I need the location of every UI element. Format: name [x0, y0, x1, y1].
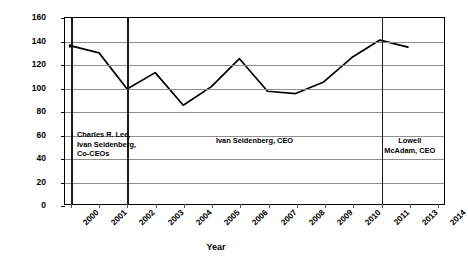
series-line	[65, 18, 444, 204]
x-tick-label: 2001	[110, 208, 129, 227]
y-tick-label: 20	[20, 177, 46, 187]
era-divider-2000	[71, 18, 73, 204]
x-tick-label: 2005	[222, 208, 241, 227]
y-tick-mark	[61, 42, 65, 43]
x-tick-label: 2011	[392, 208, 411, 227]
x-tick-label: 2003	[166, 208, 185, 227]
y-tick-mark	[61, 183, 65, 184]
x-tick-label: 2002	[138, 208, 157, 227]
y-tick-label: 60	[20, 130, 46, 140]
gridline	[65, 183, 444, 184]
x-tick-label: 2004	[194, 208, 213, 227]
gridline	[65, 42, 444, 43]
y-tick-mark	[61, 159, 65, 160]
x-tick-label: 2014	[448, 208, 467, 227]
y-tick-mark	[61, 112, 65, 113]
x-axis-title-text: Year	[206, 242, 225, 252]
y-tick-label: 100	[20, 83, 46, 93]
gridline	[65, 65, 444, 66]
x-axis-title: Year	[0, 242, 456, 252]
x-tick-label: 2009	[335, 208, 354, 227]
x-tick-label: 2010	[364, 208, 383, 227]
gridline	[65, 89, 444, 90]
x-tick-label: 2008	[307, 208, 326, 227]
y-tick-mark	[61, 65, 65, 66]
x-tick-label: 2007	[279, 208, 298, 227]
plot-area: Charles R. Lee, Ivan Seidenberg, Co-CEOs…	[64, 17, 445, 205]
y-tick-mark	[61, 89, 65, 90]
x-tick-label: 2006	[251, 208, 270, 227]
market-cap-line	[71, 40, 408, 105]
x-tick-label: 2013	[420, 208, 439, 227]
y-tick-label: 80	[20, 106, 46, 116]
y-tick-label: 160	[20, 12, 46, 22]
y-tick-mark	[61, 206, 65, 207]
x-tick-label: 2000	[81, 208, 100, 227]
y-tick-mark	[61, 18, 65, 19]
gridline	[65, 112, 444, 113]
era-annotation: Ivan Seidenberg, CEO	[127, 136, 381, 146]
gridline	[65, 159, 444, 160]
era-divider-2011	[382, 18, 384, 204]
y-tick-label: 40	[20, 153, 46, 163]
era-annotation: Lowell McAdam, CEO	[382, 136, 438, 155]
y-tick-label: 120	[20, 59, 46, 69]
era-divider-2002	[127, 18, 129, 204]
y-tick-mark	[61, 136, 65, 137]
y-tick-label: 140	[20, 36, 46, 46]
